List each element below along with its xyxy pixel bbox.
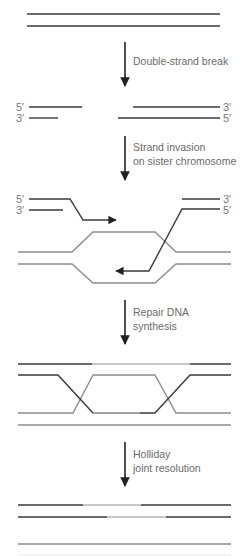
end-label-5prime-right: 5′ [223,204,231,216]
resolved-duplexes [18,505,231,555]
step-label-strand-invasion-2: on sister chromosome [133,155,236,167]
end-label-5prime-right: 5′ [223,112,231,124]
step-arrow-2: Strand invasion on sister chromosome [125,136,236,180]
step-arrow-1: Double-strand break [125,42,229,86]
double-holliday-junction [18,364,231,425]
step-arrow-3: Repair DNA synthesis [125,300,189,344]
step-arrow-4: Holliday joint resolution [125,442,201,486]
step-label-holliday-resolution-2: joint resolution [132,462,201,474]
intact-duplex [27,14,220,26]
recombination-diagram: Double-strand break 5′ 3′ 3′ 5′ Strand i… [0,0,246,556]
end-label-3prime-left: 3′ [16,112,24,124]
step-label-repair-synthesis-2: synthesis [133,320,177,332]
step-label-holliday-resolution-1: Holliday [133,448,171,460]
end-label-3prime-left: 3′ [16,204,24,216]
step-label-strand-invasion-1: Strand invasion [133,141,206,153]
strand-invasion: 5′ 3′ 3′ 5′ [16,193,231,283]
step-label-double-strand-break: Double-strand break [133,55,229,67]
step-label-repair-synthesis-1: Repair DNA [133,306,189,318]
broken-duplex: 5′ 3′ 3′ 5′ [16,101,231,124]
